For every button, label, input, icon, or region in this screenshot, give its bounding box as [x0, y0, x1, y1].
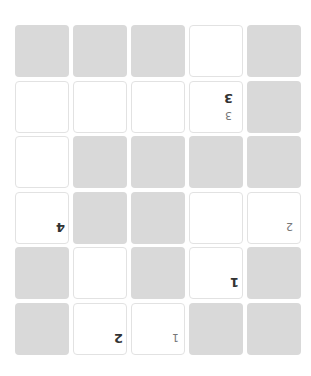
grid-cell-r5-c3[interactable]: [189, 303, 243, 355]
grid-cell-r0-c1[interactable]: [73, 25, 127, 77]
cell-clue: 4: [56, 221, 65, 234]
grid-cell-r2-c3[interactable]: [189, 136, 243, 188]
grid-cell-r1-c4[interactable]: [247, 81, 301, 133]
cell-sub-clue: 1: [172, 332, 179, 343]
grid-cell-r4-c2[interactable]: [131, 247, 185, 299]
grid-cell-r1-c0[interactable]: [15, 81, 69, 133]
puzzle-grid: 3342121: [15, 25, 301, 355]
grid-cell-r0-c4[interactable]: [247, 25, 301, 77]
cell-sub-clue: 2: [286, 221, 293, 232]
grid-cell-r1-c2[interactable]: [131, 81, 185, 133]
grid-cell-r4-c0[interactable]: [15, 247, 69, 299]
grid-cell-r1-c3[interactable]: 33: [189, 81, 243, 133]
grid-cell-r5-c4[interactable]: [247, 303, 301, 355]
grid-cell-r3-c4[interactable]: 2: [247, 192, 301, 244]
grid-cell-r4-c3[interactable]: 1: [189, 247, 243, 299]
cell-clue: 3: [224, 92, 233, 105]
cell-sub-clue: 3: [225, 110, 232, 121]
grid-cell-r2-c2[interactable]: [131, 136, 185, 188]
grid-cell-r5-c1[interactable]: 2: [73, 303, 127, 355]
cell-clue: 1: [230, 276, 239, 289]
grid-cell-r2-c0[interactable]: [15, 136, 69, 188]
grid-cell-r5-c2[interactable]: 1: [131, 303, 185, 355]
grid-cell-r2-c1[interactable]: [73, 136, 127, 188]
grid-cell-r4-c1[interactable]: [73, 247, 127, 299]
grid-cell-r0-c2[interactable]: [131, 25, 185, 77]
grid-cell-r1-c1[interactable]: [73, 81, 127, 133]
cell-clue: 2: [114, 332, 123, 345]
grid-cell-r2-c4[interactable]: [247, 136, 301, 188]
grid-cell-r3-c3[interactable]: [189, 192, 243, 244]
grid-cell-r0-c3[interactable]: [189, 25, 243, 77]
grid-cell-r5-c0[interactable]: [15, 303, 69, 355]
grid-cell-r3-c0[interactable]: 4: [15, 192, 69, 244]
grid-cell-r3-c1[interactable]: [73, 192, 127, 244]
grid-cell-r4-c4[interactable]: [247, 247, 301, 299]
grid-cell-r0-c0[interactable]: [15, 25, 69, 77]
grid-cell-r3-c2[interactable]: [131, 192, 185, 244]
